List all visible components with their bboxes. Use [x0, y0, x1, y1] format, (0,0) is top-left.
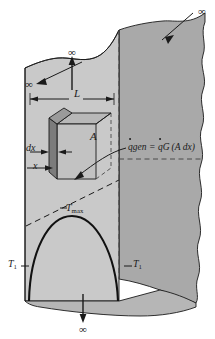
- length-label: L: [74, 88, 80, 99]
- qg-dot-accent: [159, 138, 161, 140]
- heat-generation-equation: qgen=qG(A dx): [128, 143, 195, 153]
- qgen-symbol: q: [128, 143, 133, 153]
- qgen-subscript: gen: [133, 142, 147, 152]
- surface-temp-right-subscript: 1: [139, 263, 143, 270]
- heat-transfer-wall-diagram: L A dx x Tmax T1 T1 qgen=qG(A dx) ∞ ∞ ∞ …: [0, 0, 215, 339]
- qgen-base: q: [128, 142, 133, 152]
- surface-temp-left-subscript: 1: [14, 263, 18, 270]
- infinity-symbol-bottom: ∞: [79, 324, 87, 335]
- max-temperature-subscript: max: [72, 207, 84, 214]
- infinity-symbol-top-middle: ∞: [68, 47, 76, 58]
- qg-symbol: q: [158, 143, 163, 153]
- max-temperature-label: Tmax: [66, 203, 84, 214]
- element-left-face: [49, 118, 57, 179]
- equation-group: (A dx): [172, 142, 195, 152]
- element-thickness-label: dx: [26, 143, 35, 153]
- surface-temperature-right-label: T1: [133, 259, 142, 270]
- area-label: A: [90, 131, 97, 142]
- qgen-dot-accent: [129, 138, 131, 140]
- infinity-symbol-left: ∞: [25, 79, 33, 90]
- position-label: x: [33, 161, 37, 171]
- qg-base: q: [158, 142, 163, 152]
- equation-equals: =: [149, 142, 155, 152]
- surface-temperature-left-label: T1: [8, 259, 17, 270]
- wall-side-face: [119, 13, 205, 303]
- infinity-symbol-top-right: ∞: [198, 6, 206, 17]
- qg-subscript: G: [163, 142, 170, 152]
